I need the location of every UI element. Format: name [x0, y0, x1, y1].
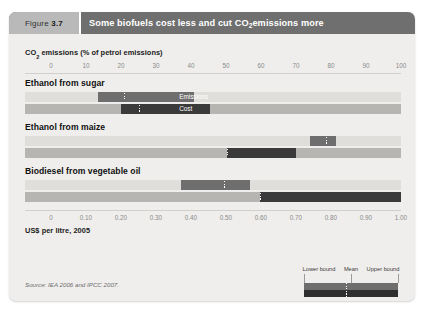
group-label-biodiesel: Biodiesel from vegetable oil: [25, 166, 141, 176]
figure-prefix: Figure: [25, 19, 49, 28]
legend-mean-tick: [351, 274, 352, 283]
header-divider: [79, 12, 81, 34]
top-axis-label-part2: emissions (% of petrol emissions): [39, 48, 162, 57]
emissions-track-ethanol-maize: [25, 136, 401, 146]
cost-bar-ethanol-maize: [227, 148, 296, 158]
chart-legend: Lower bound Mean Upper bound: [295, 266, 407, 302]
legend-mean-marker: [346, 283, 347, 297]
top-axis-tick: 30: [152, 62, 159, 69]
legend-lower-bound-tick: [304, 274, 305, 283]
bottom-axis-tick: 0.30: [150, 214, 162, 221]
emissions-track-biodiesel: [25, 180, 401, 190]
figure-number: 3.7: [51, 19, 63, 28]
bottom-axis-tick: 0.90: [360, 214, 372, 221]
cost-track-ethanol-sugar: Cost: [25, 104, 401, 114]
bottom-axis-tick: 0.10: [80, 214, 92, 221]
bottom-axis-tick: 0: [49, 214, 53, 221]
bottom-axis-ticks: 0 0.10 0.20 0.30 0.40 0.50 0.60 0.70 0.8…: [51, 214, 401, 223]
group-label-text: Biodiesel from vegetable oil: [25, 166, 141, 176]
top-axis-tick: 10: [82, 62, 89, 69]
bottom-axis-tick: 0.50: [220, 214, 232, 221]
top-axis-rule: [25, 73, 401, 74]
top-axis-ticks: 0 10 20 30 40 50 60 70 80 90 100: [51, 62, 401, 71]
source-text: Source: IEA 2006 and IPCC 2007.: [25, 281, 119, 288]
cost-bar-ethanol-sugar: [121, 104, 210, 114]
cost-track-ethanol-maize: [25, 148, 401, 158]
legend-mean-label: Mean: [344, 266, 358, 272]
figure-card: Figure 3.7 Some biofuels cost less and c…: [9, 12, 415, 301]
bottom-axis-rule: [25, 210, 401, 211]
bottom-axis-tick: 0.40: [185, 214, 197, 221]
top-axis-tick: 70: [292, 62, 299, 69]
top-axis-tick: 20: [117, 62, 124, 69]
top-axis-tick: 0: [49, 62, 53, 69]
emissions-mean-marker-ethanol-maize: [326, 137, 327, 145]
legend-emissions-swatch: [304, 283, 398, 290]
bottom-axis-title: US$ per litre, 2005: [25, 226, 90, 235]
figure-title: Some biofuels cost less and cut CO2 emis…: [89, 12, 409, 34]
cost-mean-marker-ethanol-maize: [227, 149, 228, 157]
emissions-mean-marker-ethanol-sugar: [124, 93, 125, 101]
top-axis-tick: 90: [362, 62, 369, 69]
top-axis-tick: 80: [327, 62, 334, 69]
source-note: Source: IEA 2006 and IPCC 2007.: [25, 281, 119, 288]
bottom-axis-tick: 1.00: [395, 214, 407, 221]
top-axis-tick: 50: [222, 62, 229, 69]
cost-bar-label: Cost: [179, 104, 192, 114]
group-label-text: Ethanol from maize: [25, 122, 105, 132]
emissions-bar-ethanol-maize: [310, 136, 336, 146]
cost-mean-marker-biodiesel: [260, 193, 261, 201]
top-axis-tick: 60: [257, 62, 264, 69]
bottom-axis-tick: 0.70: [290, 214, 302, 221]
figure-title-part2: emissions more: [252, 18, 323, 28]
top-axis-label-part1: CO: [25, 48, 36, 57]
cost-bar-biodiesel: [260, 192, 401, 202]
bottom-axis-tick: 0.20: [115, 214, 127, 221]
emissions-track-ethanol-sugar: Emissions: [25, 92, 401, 102]
emissions-bar-biodiesel: [181, 180, 250, 190]
group-label-ethanol-maize: Ethanol from maize: [25, 122, 105, 132]
figure-title-subscript: 2: [249, 22, 253, 29]
legend-lower-bound-label: Lower bound: [303, 266, 336, 272]
top-axis-tick: 40: [187, 62, 194, 69]
figure-page: Figure 3.7 Some biofuels cost less and c…: [0, 0, 431, 319]
bottom-axis-tick: 0.80: [325, 214, 337, 221]
legend-upper-bound-label: Upper bound: [367, 266, 400, 272]
emissions-mean-marker-biodiesel: [224, 181, 225, 189]
figure-number-text: Figure 3.7: [25, 19, 63, 28]
emissions-bar-label: Emissions: [179, 92, 208, 102]
figure-header: Figure 3.7 Some biofuels cost less and c…: [9, 12, 415, 34]
bottom-axis-tick: 0.60: [255, 214, 267, 221]
figure-number-tag: Figure 3.7: [9, 12, 79, 34]
legend-upper-bound-tick: [398, 274, 399, 283]
group-label-ethanol-sugar: Ethanol from sugar: [25, 78, 105, 88]
top-axis-title: CO2 emissions (% of petrol emissions): [25, 48, 163, 58]
top-axis-label-subscript: 2: [36, 54, 39, 60]
cost-mean-marker-ethanol-sugar: [139, 105, 140, 113]
legend-cost-swatch: [304, 290, 398, 297]
top-axis-tick: 100: [396, 62, 407, 69]
figure-body: CO2 emissions (% of petrol emissions) 0 …: [9, 34, 415, 301]
cost-track-biodiesel: [25, 192, 401, 202]
figure-title-part1: Some biofuels cost less and cut CO: [89, 18, 249, 28]
